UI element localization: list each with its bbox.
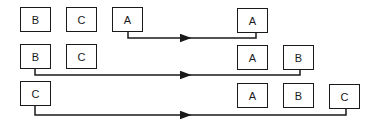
box-label: A	[249, 52, 256, 64]
box-label: C	[32, 88, 40, 100]
row-3-left-box-c: C	[20, 81, 51, 106]
row-2-right-box-a: A	[237, 45, 268, 70]
row-1-left-box-c: C	[66, 7, 97, 32]
box-label: A	[249, 90, 256, 102]
box-label: C	[341, 91, 349, 103]
row-2-right-box-b: B	[283, 45, 314, 70]
box-label: A	[249, 15, 256, 27]
box-label: C	[78, 51, 86, 63]
row-2-left-box-c: C	[66, 44, 97, 69]
connector-layer	[0, 0, 381, 125]
box-label: B	[32, 14, 39, 26]
row-3-right-box-c: C	[329, 84, 360, 109]
box-label: A	[124, 14, 131, 26]
row-1-left-box-b: B	[20, 7, 51, 32]
box-label: B	[32, 51, 39, 63]
row-2-left-box-b: B	[20, 44, 51, 69]
box-label: B	[295, 90, 302, 102]
box-label: C	[78, 14, 86, 26]
row-3-right-box-a: A	[237, 83, 268, 108]
box-label: B	[295, 52, 302, 64]
row-1-left-box-a: A	[112, 7, 143, 32]
row-3-right-box-b: B	[283, 83, 314, 108]
row-1-right-box-a: A	[237, 8, 268, 33]
